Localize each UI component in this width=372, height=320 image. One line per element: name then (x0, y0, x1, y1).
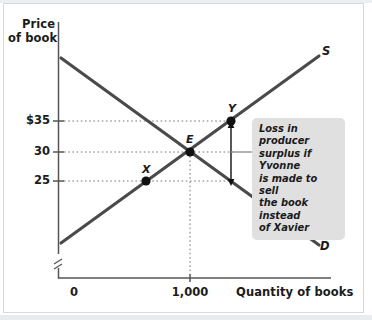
y-axis-break-icon (54, 259, 62, 269)
demand-curve-label: D (320, 240, 330, 253)
y-tick-label-35: $35 (10, 114, 50, 127)
tick-marks (53, 121, 190, 282)
x-origin-label: 0 (64, 286, 84, 299)
point-y-label: Y (228, 103, 236, 115)
y-axis-title-line1: Price (22, 18, 54, 31)
y-tick-label-30: 30 (10, 145, 50, 158)
y-axis-title-line2: of book (8, 32, 54, 45)
point-e-label: E (186, 134, 194, 146)
x-tick-label-1000: 1,000 (165, 286, 215, 299)
point-x-marker (141, 176, 150, 185)
guide-lines (64, 121, 233, 274)
figure-root: Price of book $35 30 25 0 1,000 Quantity… (0, 0, 372, 320)
producer-surplus-loss-arrow (228, 121, 235, 186)
point-e-marker (185, 147, 194, 156)
supply-curve-label: S (322, 45, 330, 58)
x-axis-title: Quantity of books (236, 286, 353, 299)
producer-surplus-callout: Loss in producer surplus if Yvonne is ma… (252, 118, 345, 240)
point-x-label: X (142, 164, 150, 176)
y-tick-label-25: 25 (10, 174, 50, 187)
